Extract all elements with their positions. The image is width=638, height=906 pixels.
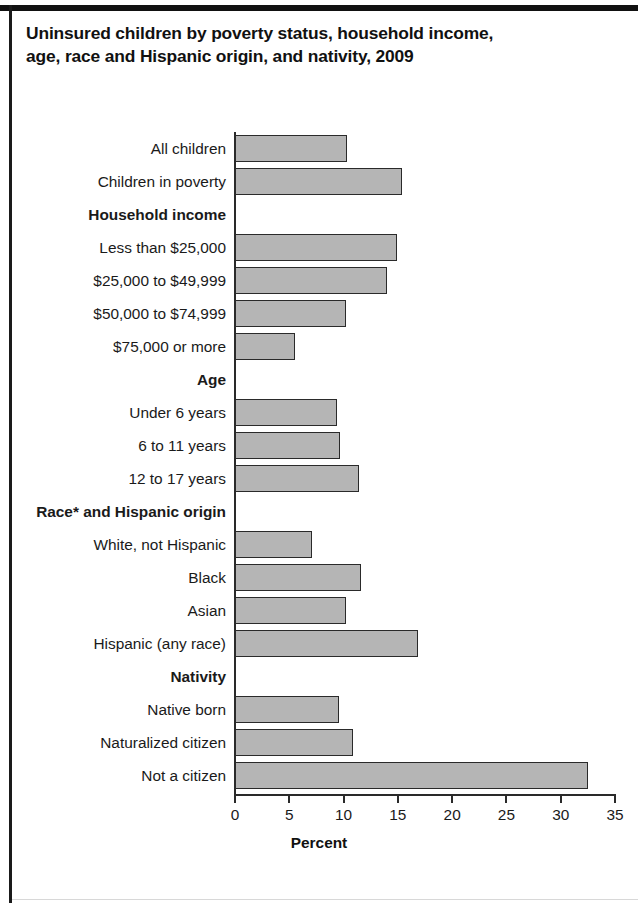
bar-row: $75,000 or more: [0, 330, 638, 363]
x-axis-tick-label: 20: [432, 806, 472, 824]
bar: [235, 597, 346, 624]
x-axis-line: [234, 794, 614, 796]
bar: [235, 432, 340, 459]
bar-row-label: Asian: [15, 594, 235, 627]
bar-row: Hispanic (any race): [0, 627, 638, 660]
chart-title-line-2: age, race and Hispanic origin, and nativ…: [26, 45, 586, 68]
bar-row-label: $25,000 to $49,999: [15, 264, 235, 297]
bar: [235, 234, 397, 261]
bar-row-label: Black: [15, 561, 235, 594]
bar-row: $25,000 to $49,999: [0, 264, 638, 297]
bar-row: Not a citizen: [0, 759, 638, 792]
x-axis-tick-label: 5: [269, 806, 309, 824]
x-axis-tick: [343, 794, 345, 803]
x-axis-tick: [451, 794, 453, 803]
bar-row: 12 to 17 years: [0, 462, 638, 495]
top-rule-divider: [0, 5, 638, 11]
category-header-label: Nativity: [15, 660, 235, 693]
bar-row-label: Less than $25,000: [15, 231, 235, 264]
x-axis-tick-label: 10: [324, 806, 364, 824]
bar-row-label: All children: [15, 132, 235, 165]
x-axis-tick-label: 0: [215, 806, 255, 824]
bar-row-label: 12 to 17 years: [15, 462, 235, 495]
bar-row-label: Under 6 years: [15, 396, 235, 429]
bar: [235, 168, 402, 195]
bar-row-label: Not a citizen: [15, 759, 235, 792]
bar-row: All children: [0, 132, 638, 165]
x-axis-tick: [614, 794, 616, 803]
category-header-row: Household income: [0, 198, 638, 231]
bar: [235, 135, 347, 162]
x-axis-tick: [505, 794, 507, 803]
bar-row-label: Hispanic (any race): [15, 627, 235, 660]
bar-rows: All childrenChildren in povertyHousehold…: [0, 132, 638, 792]
category-header-label: Age: [15, 363, 235, 396]
bar-row: Black: [0, 561, 638, 594]
bar: [235, 630, 418, 657]
bar: [235, 465, 359, 492]
bar: [235, 564, 361, 591]
bar: [235, 762, 588, 789]
bar-row-label: $50,000 to $74,999: [15, 297, 235, 330]
bar-row-label: Naturalized citizen: [15, 726, 235, 759]
chart-title: Uninsured children by poverty status, ho…: [26, 22, 586, 68]
bar-row: $50,000 to $74,999: [0, 297, 638, 330]
bar-row-label: 6 to 11 years: [15, 429, 235, 462]
category-header-row: Age: [0, 363, 638, 396]
category-header-label: Race* and Hispanic origin: [15, 495, 235, 528]
bar: [235, 399, 337, 426]
bar-row: Under 6 years: [0, 396, 638, 429]
x-axis-tick: [288, 794, 290, 803]
bar-row-label: $75,000 or more: [15, 330, 235, 363]
bottom-rule-divider: [12, 899, 638, 900]
bar-row-label: Children in poverty: [15, 165, 235, 198]
bar-row: 6 to 11 years: [0, 429, 638, 462]
category-header-row: Nativity: [0, 660, 638, 693]
x-axis-tick-label: 30: [541, 806, 581, 824]
bar: [235, 696, 339, 723]
figure-panel: Uninsured children by poverty status, ho…: [0, 0, 638, 906]
bar: [235, 333, 295, 360]
bar-chart-plot-area: All childrenChildren in povertyHousehold…: [0, 132, 638, 832]
x-axis-tick: [560, 794, 562, 803]
x-axis-tick: [234, 794, 236, 803]
bar-row: Asian: [0, 594, 638, 627]
x-axis-label: Percent: [0, 834, 638, 852]
bar-row-label: Native born: [15, 693, 235, 726]
x-axis-tick-label: 15: [378, 806, 418, 824]
category-header-label: Household income: [15, 198, 235, 231]
bar: [235, 300, 346, 327]
bar-row: Children in poverty: [0, 165, 638, 198]
x-axis-tick-label: 25: [486, 806, 526, 824]
chart-title-line-1: Uninsured children by poverty status, ho…: [26, 22, 586, 45]
bar: [235, 267, 387, 294]
bar-row: Native born: [0, 693, 638, 726]
bar-row: Less than $25,000: [0, 231, 638, 264]
bar-row-label: White, not Hispanic: [15, 528, 235, 561]
bar-row: White, not Hispanic: [0, 528, 638, 561]
category-header-row: Race* and Hispanic origin: [0, 495, 638, 528]
x-axis-tick: [397, 794, 399, 803]
x-axis-tick-label: 35: [595, 806, 635, 824]
bar: [235, 729, 353, 756]
bar-row: Naturalized citizen: [0, 726, 638, 759]
bar: [235, 531, 312, 558]
